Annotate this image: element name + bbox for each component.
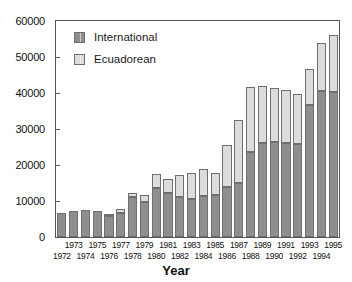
- bar-segment-international: [317, 91, 326, 237]
- x-axis-tick-label: 1972: [53, 251, 71, 261]
- dark-gray-swatch: [74, 32, 85, 43]
- bar-segment-international: [152, 188, 161, 237]
- y-axis-tick-mark: [55, 165, 60, 166]
- bar-column: [234, 21, 243, 237]
- bar-segment-international: [81, 210, 90, 237]
- bar-segment-international: [281, 143, 290, 237]
- bar-segment-ecuadorean: [293, 94, 302, 144]
- bar-segment-international: [163, 193, 172, 237]
- bar-segment-international: [234, 183, 243, 237]
- bar-segment-ecuadorean: [281, 90, 290, 143]
- legend-item: Ecuadorean: [74, 48, 157, 70]
- bar-segment-ecuadorean: [234, 120, 243, 183]
- chart-figure: 0100002000030000400005000060000 Internat…: [0, 0, 352, 282]
- bar-segment-international: [93, 211, 102, 237]
- legend-item: International: [74, 26, 157, 48]
- x-axis-title: Year: [0, 263, 352, 278]
- x-axis-tick-label: 1979: [136, 240, 154, 250]
- bar-segment-international: [246, 152, 255, 237]
- bar-column: [270, 21, 279, 237]
- bar-segment-ecuadorean: [140, 195, 149, 202]
- x-axis-tick-label: 1974: [77, 251, 95, 261]
- bar-column: [175, 21, 184, 237]
- x-axis-tick-label: 1983: [183, 240, 201, 250]
- y-axis-tick-label: 20000: [15, 159, 45, 171]
- bar-column: [281, 21, 290, 237]
- bar-segment-ecuadorean: [163, 179, 172, 193]
- bar-segment-ecuadorean: [317, 43, 326, 91]
- bar-segment-ecuadorean: [104, 214, 113, 216]
- bar-column: [222, 21, 231, 237]
- bar-segment-international: [329, 92, 338, 237]
- bar-segment-ecuadorean: [305, 69, 314, 105]
- y-axis-tick-mark: [55, 129, 60, 130]
- bar-column: [246, 21, 255, 237]
- y-axis-tick-mark: [55, 57, 60, 58]
- x-axis-tick-label: 1978: [124, 251, 142, 261]
- x-axis-tick-label: 1993: [301, 240, 319, 250]
- bar-segment-ecuadorean: [199, 169, 208, 196]
- x-axis-tick-label: 1988: [242, 251, 260, 261]
- x-axis-tick-label: 1981: [159, 240, 177, 250]
- bar-column: [317, 21, 326, 237]
- y-axis-tick-mark: [55, 201, 60, 202]
- x-axis-tick-label: 1982: [171, 251, 189, 261]
- bar-column: [258, 21, 267, 237]
- x-axis-tick-label: 1990: [265, 251, 283, 261]
- x-axis-tick-label: 1989: [253, 240, 271, 250]
- bar-segment-international: [199, 196, 208, 237]
- bar-segment-international: [69, 211, 78, 237]
- bar-segment-ecuadorean: [222, 145, 231, 187]
- y-axis-tick-label: 60000: [15, 15, 45, 27]
- x-axis-tick-label: 1991: [277, 240, 295, 250]
- legend-item-label: Ecuadorean: [94, 53, 156, 65]
- bar-column: [211, 21, 220, 237]
- bar-segment-ecuadorean: [246, 87, 255, 153]
- bar-segment-ecuadorean: [211, 173, 220, 196]
- y-axis: 0100002000030000400005000060000: [0, 0, 52, 282]
- y-axis-tick-label: 30000: [15, 123, 45, 135]
- bar-segment-international: [116, 213, 125, 237]
- bar-segment-ecuadorean: [258, 86, 267, 143]
- bar-segment-international: [305, 105, 314, 237]
- light-gray-swatch: [74, 54, 85, 65]
- x-axis-tick-label: 1977: [112, 240, 130, 250]
- x-axis-tick-label: 1976: [100, 251, 118, 261]
- y-axis-tick-label: 10000: [15, 195, 45, 207]
- bar-segment-ecuadorean: [329, 35, 338, 91]
- bar-column: [199, 21, 208, 237]
- bar-segment-international: [270, 142, 279, 237]
- x-axis-tick-label: 1986: [218, 251, 236, 261]
- x-axis-tick-label: 1985: [206, 240, 224, 250]
- y-axis-tick-label: 40000: [15, 87, 45, 99]
- bar-segment-international: [104, 216, 113, 237]
- bar-column: [293, 21, 302, 237]
- bar-segment-international: [175, 197, 184, 237]
- legend-item-label: International: [94, 31, 157, 43]
- x-axis-tick-label: 1995: [324, 240, 342, 250]
- x-axis-tick-label: 1994: [312, 251, 330, 261]
- bar-column: [187, 21, 196, 237]
- bar-segment-international: [128, 197, 137, 237]
- bar-segment-international: [293, 144, 302, 237]
- bar-segment-international: [211, 195, 220, 237]
- bar-column: [305, 21, 314, 237]
- bar-segment-international: [258, 143, 267, 237]
- y-axis-tick-label: 0: [39, 231, 45, 243]
- bar-segment-ecuadorean: [175, 175, 184, 197]
- y-axis-tick-mark: [55, 93, 60, 94]
- x-axis-tick-label: 1980: [147, 251, 165, 261]
- bar-segment-ecuadorean: [270, 88, 279, 142]
- x-axis-tick-label: 1984: [195, 251, 213, 261]
- bar-column: [163, 21, 172, 237]
- bar-segment-international: [57, 213, 66, 237]
- bar-segment-international: [187, 199, 196, 237]
- x-axis-tick-label: 1975: [88, 240, 106, 250]
- x-axis-tick-label: 1987: [230, 240, 248, 250]
- x-axis-tick-label: 1973: [65, 240, 83, 250]
- bar-segment-ecuadorean: [128, 193, 137, 198]
- y-axis-tick-label: 50000: [15, 51, 45, 63]
- bar-segment-ecuadorean: [187, 173, 196, 199]
- bar-segment-international: [140, 202, 149, 237]
- bar-column: [329, 21, 338, 237]
